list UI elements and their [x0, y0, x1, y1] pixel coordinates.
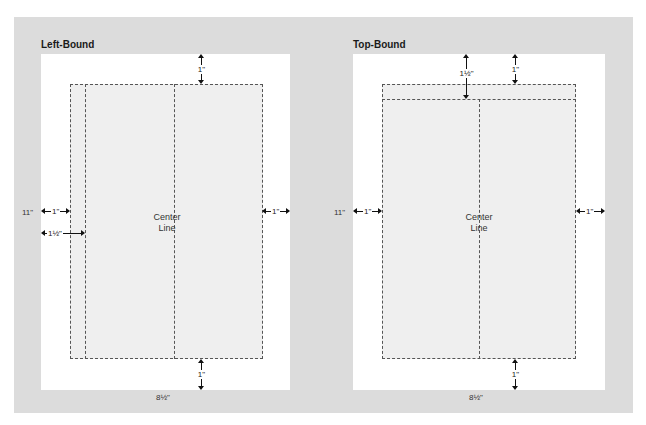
left-bound-top-margin-arrow: 1": [197, 54, 206, 84]
top-bound-width-label: 8½": [469, 393, 483, 402]
margin-label: 1": [191, 65, 212, 74]
left-bound-bottom-margin-arrow: 1": [197, 359, 206, 390]
top-bound-bottom-margin-arrow: 1": [511, 359, 520, 390]
left-bound-title: Left-Bound: [41, 39, 94, 50]
top-bound-right-margin-arrow: 1": [576, 207, 605, 216]
top-bound-title: Top-Bound: [353, 39, 406, 50]
center-label-line2: Line: [459, 223, 499, 234]
left-bound-binding-margin-arrow: 1½": [41, 229, 85, 238]
margin-label: 1": [191, 370, 212, 379]
top-bound-center-label: Center Line: [459, 212, 499, 234]
center-label-line1: Center: [459, 212, 499, 223]
margin-label: 1": [505, 370, 526, 379]
center-label-line1: Center: [147, 212, 187, 223]
center-label-line2: Line: [147, 223, 187, 234]
left-bound-left-margin-arrow: 1": [41, 207, 70, 216]
left-bound-binding-line: [85, 84, 86, 359]
left-bound-right-margin-arrow: 1": [262, 207, 290, 216]
left-bound-height-label: 11": [22, 208, 33, 217]
top-bound-top-margin-arrow: 1": [511, 54, 520, 84]
margin-label: 1": [271, 207, 280, 216]
margin-label: 1½": [47, 229, 63, 238]
margin-label: 1": [363, 207, 372, 216]
left-bound-width-label: 8½": [156, 393, 170, 402]
top-bound-left-margin-arrow: 1": [353, 207, 382, 216]
margin-label: 1": [51, 207, 60, 216]
margin-label: 1½": [453, 69, 480, 78]
top-bound-binding-margin-arrow: 1½": [462, 54, 471, 99]
left-bound-center-label: Center Line: [147, 212, 187, 234]
margin-label: 1": [585, 207, 594, 216]
top-bound-height-label: 11": [334, 208, 345, 217]
margin-label: 1": [505, 65, 526, 74]
